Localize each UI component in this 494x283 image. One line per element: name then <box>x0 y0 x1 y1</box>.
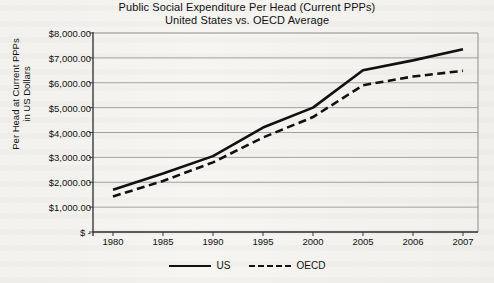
legend-label-us: US <box>217 260 231 271</box>
chart-legend: US OECD <box>0 260 494 271</box>
legend-label-oecd: OECD <box>297 260 326 271</box>
plot-area <box>0 0 494 283</box>
legend-item-oecd[interactable]: OECD <box>249 260 326 271</box>
data-series <box>113 49 463 196</box>
axis-lines <box>93 32 478 236</box>
series-line-oecd <box>113 71 463 197</box>
gridlines <box>93 33 478 232</box>
legend-swatch-dashed-line <box>249 265 291 267</box>
line-chart: Public Social Expenditure Per Head (Curr… <box>0 0 494 283</box>
legend-swatch-solid-line <box>169 265 211 267</box>
series-line-us <box>113 49 463 190</box>
legend-item-us[interactable]: US <box>169 260 231 271</box>
